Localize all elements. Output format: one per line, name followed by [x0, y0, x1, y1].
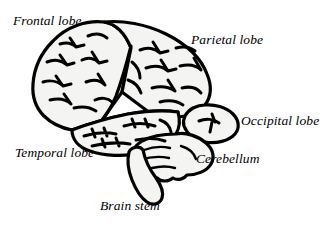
- label-frontal-lobe: Frontal lobe: [13, 14, 82, 28]
- label-brain-stem: Brain stem: [100, 199, 160, 213]
- brain-diagram: Frontal lobe Parietal lobe Occipital lob…: [0, 0, 334, 225]
- frontal-lobe-region: [33, 22, 131, 131]
- label-temporal-lobe: Temporal lobe: [15, 146, 94, 160]
- label-parietal-lobe: Parietal lobe: [191, 33, 263, 47]
- label-cerebellum: Cerebellum: [196, 152, 259, 166]
- label-occipital-lobe: Occipital lobe: [241, 114, 319, 128]
